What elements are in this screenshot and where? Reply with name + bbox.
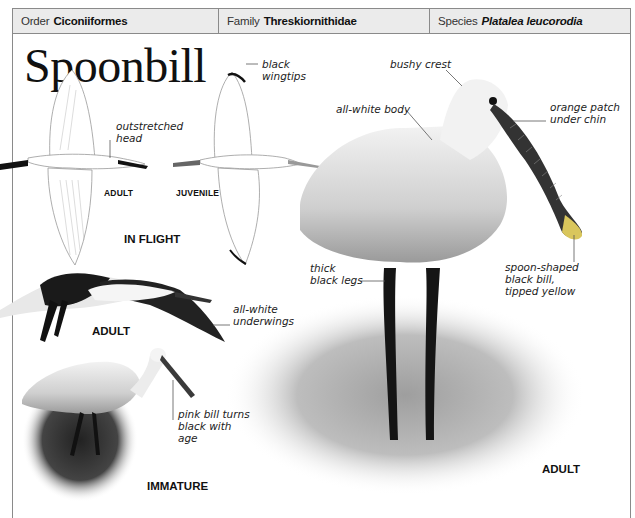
adult-flight-legs xyxy=(0,160,28,170)
caption-all-white-body: all-white body xyxy=(336,103,410,115)
label-adult-flying: ADULT xyxy=(92,325,130,337)
label-in-flight: IN FLIGHT xyxy=(124,233,180,245)
label-juvenile-flight: JUVENILE xyxy=(176,188,219,198)
caption-spoon-bill: spoon-shaped black bill, tipped yellow xyxy=(505,261,579,297)
caption-black-wingtips: black wingtips xyxy=(262,58,306,82)
caption-all-white-underwings: all-white underwings xyxy=(233,303,294,327)
caption-orange-patch: orange patch under chin xyxy=(550,101,620,125)
caption-bushy-crest: bushy crest xyxy=(390,58,451,70)
caption-thick-legs: thick black legs xyxy=(310,262,363,286)
label-adult-flight: ADULT xyxy=(104,188,133,198)
label-immature: IMMATURE xyxy=(147,480,208,492)
caption-pink-bill: pink bill turns black with age xyxy=(178,408,250,444)
caption-outstretched-head: outstretched head xyxy=(116,120,183,144)
juvenile-flight-drawing xyxy=(200,72,300,265)
label-adult-standing: ADULT xyxy=(542,463,580,475)
